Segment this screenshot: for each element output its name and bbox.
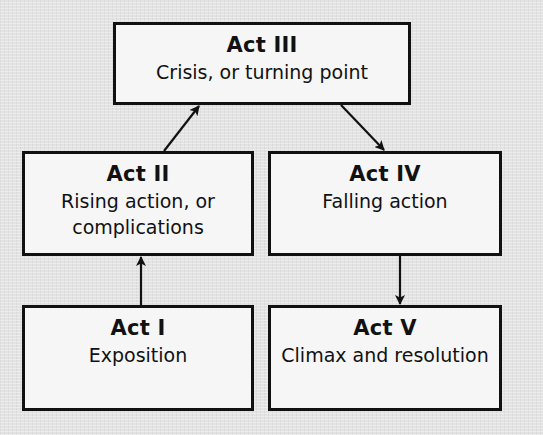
node-title: Act IV <box>271 160 499 188</box>
arrow-down-right-icon <box>341 105 384 150</box>
node-title: Act I <box>25 314 251 342</box>
five-act-structure-diagram: Act III Crisis, or turning point Act II … <box>0 0 543 435</box>
node-description: Crisis, or turning point <box>122 59 402 85</box>
node-act-4: Act IV Falling action <box>268 151 502 256</box>
node-title: Act II <box>25 160 251 188</box>
arrow-up-right-icon <box>164 106 199 151</box>
node-act-1: Act I Exposition <box>22 305 254 411</box>
node-description: Falling action <box>277 188 493 214</box>
node-description: Rising action, or complications <box>31 188 245 240</box>
node-act-3: Act III Crisis, or turning point <box>113 22 411 105</box>
node-title: Act III <box>116 31 408 59</box>
node-title: Act V <box>271 314 499 342</box>
node-description: Exposition <box>31 342 245 368</box>
node-description: Climax and resolution <box>277 342 493 368</box>
node-act-5: Act V Climax and resolution <box>268 305 502 411</box>
node-act-2: Act II Rising action, or complications <box>22 151 254 256</box>
